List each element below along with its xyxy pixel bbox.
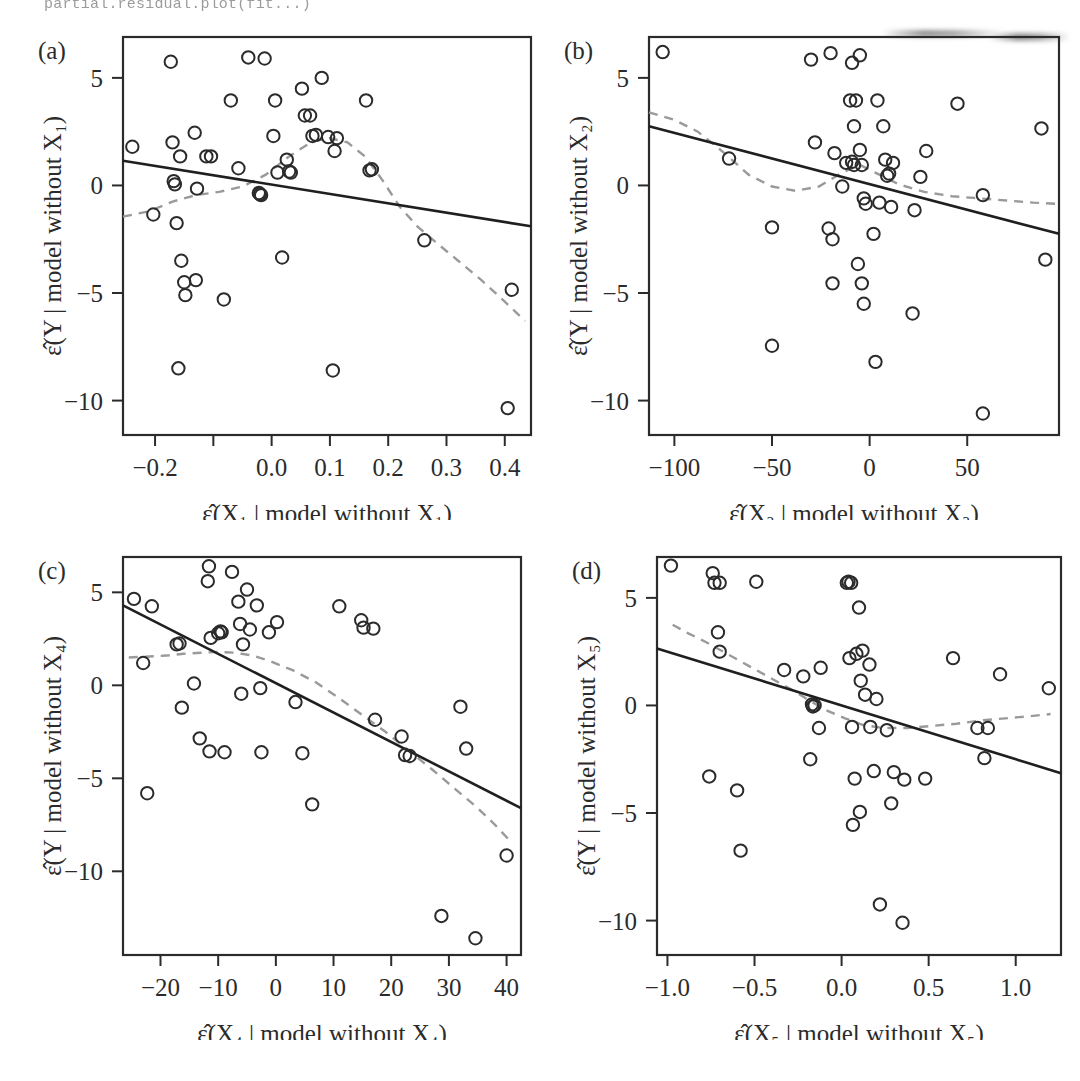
data-point: [809, 136, 821, 148]
data-point: [863, 658, 875, 670]
data-point: [885, 201, 897, 213]
x-tick-label: 0: [863, 454, 876, 481]
y-tick-label: −10: [64, 388, 103, 415]
y-axis-label: ε̂(Y | model without X₁): [39, 116, 67, 356]
data-point: [203, 560, 215, 572]
data-point: [814, 662, 826, 674]
data-point: [804, 753, 816, 765]
x-tick-label: −20: [141, 974, 180, 1001]
data-point: [218, 746, 230, 758]
data-point: [333, 600, 345, 612]
data-point: [914, 171, 926, 183]
y-tick-label: −10: [598, 908, 637, 935]
data-point: [854, 806, 866, 818]
data-point: [190, 274, 202, 286]
plot-frame: [123, 557, 521, 955]
data-point: [175, 255, 187, 267]
data-point: [712, 626, 724, 638]
x-tick-label: 0.0: [256, 454, 287, 481]
data-point: [172, 362, 184, 374]
y-tick-label: −5: [610, 800, 637, 827]
data-point: [868, 765, 880, 777]
data-point: [805, 53, 817, 65]
data-point: [188, 127, 200, 139]
linear-fit-line: [123, 605, 521, 808]
data-point: [1043, 682, 1055, 694]
data-point: [435, 910, 447, 922]
x-tick-label: 0.3: [431, 454, 462, 481]
data-point: [218, 293, 230, 305]
data-point: [454, 701, 466, 713]
data-point: [460, 742, 472, 754]
data-point: [867, 228, 879, 240]
data-point: [395, 730, 407, 742]
data-point: [920, 145, 932, 157]
data-point: [244, 623, 256, 635]
data-point: [852, 258, 864, 270]
data-point: [766, 221, 778, 233]
data-point: [877, 120, 889, 132]
x-tick-label: −10: [199, 974, 238, 1001]
data-point: [896, 917, 908, 929]
data-point: [665, 559, 677, 571]
data-point: [870, 693, 882, 705]
data-point: [656, 46, 668, 58]
data-point: [846, 721, 858, 733]
data-point: [146, 600, 158, 612]
x-tick-label: −0.5: [732, 974, 777, 1001]
data-point: [316, 72, 328, 84]
data-point: [225, 94, 237, 106]
data-point: [254, 682, 266, 694]
panel-label: (d): [572, 557, 601, 585]
y-tick-label: 5: [91, 579, 104, 606]
data-point: [1035, 122, 1047, 134]
y-axis-label: ε̂(Y | model without X₅): [573, 636, 601, 876]
data-point: [887, 157, 899, 169]
panel-a: (a)−0.20.00.10.20.30.450−5−10ε̂(Y | mode…: [0, 20, 540, 520]
data-point: [141, 787, 153, 799]
y-tick-label: 5: [625, 585, 638, 612]
y-tick-label: 0: [91, 172, 104, 199]
data-point: [271, 616, 283, 628]
y-tick-label: −10: [64, 858, 103, 885]
data-point: [281, 153, 293, 165]
data-point: [854, 49, 866, 61]
x-tick-label: 30: [436, 974, 461, 1001]
x-tick-label: −1.0: [645, 974, 690, 1001]
x-tick-label: 10: [321, 974, 346, 1001]
data-point: [327, 364, 339, 376]
plot-frame: [123, 37, 531, 435]
x-axis-label: ε̂(X₄ | model without X₄): [197, 1020, 447, 1040]
y-tick-label: 5: [91, 65, 104, 92]
y-tick-label: −5: [76, 280, 103, 307]
x-tick-label: −100: [649, 454, 701, 481]
data-point: [734, 844, 746, 856]
x-axis-label: ε̂(X₅ | model without X₅): [734, 1020, 984, 1040]
data-point: [271, 166, 283, 178]
data-point: [826, 277, 838, 289]
data-point: [241, 583, 253, 595]
data-point: [137, 657, 149, 669]
data-point: [858, 298, 870, 310]
x-tick-label: 0.2: [373, 454, 404, 481]
data-point: [873, 196, 885, 208]
data-point: [906, 307, 918, 319]
panel-d: (d)−1.0−0.50.00.51.050−5−10ε̂(Y | model …: [540, 540, 1080, 1040]
data-point: [289, 696, 301, 708]
data-point: [179, 289, 191, 301]
x-tick-label: −50: [752, 454, 791, 481]
data-point: [251, 599, 263, 611]
data-point: [853, 601, 865, 613]
data-point: [885, 797, 897, 809]
data-point: [855, 675, 867, 687]
x-tick-label: 40: [494, 974, 519, 1001]
smooth-fit-line: [129, 652, 513, 844]
y-axis-label: ε̂(Y | model without X₄): [39, 636, 67, 876]
data-point: [296, 747, 308, 759]
y-tick-label: −5: [76, 765, 103, 792]
linear-fit-line: [123, 161, 531, 227]
y-tick-label: 0: [625, 692, 638, 719]
panel-c: (c)−20−1001020304050−5−10ε̂(Y | model wi…: [0, 540, 540, 1040]
data-point: [871, 94, 883, 106]
data-point: [869, 356, 881, 368]
